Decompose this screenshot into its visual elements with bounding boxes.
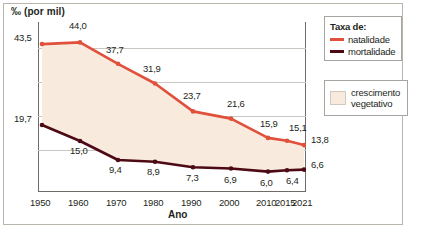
natalidade-point-1950 xyxy=(40,42,45,47)
mortalidade-point-2010 xyxy=(266,169,271,174)
x-tick-1980: 1980 xyxy=(143,197,163,208)
mortalidade-label-1980: 8,9 xyxy=(147,166,160,177)
legend-crescimento-vegetativo: crescimento vegetativo xyxy=(324,80,408,116)
legend-rates: Taxa de: natalidade mortalidade xyxy=(324,16,402,61)
natalidade-label-1950: 43,5 xyxy=(14,32,32,43)
mortalidade-label-2000: 6,9 xyxy=(224,174,237,185)
natalidade-label-1980: 31,9 xyxy=(143,63,161,74)
natalidade-point-1990 xyxy=(191,109,196,114)
legend-swatch-mortalidade xyxy=(330,50,344,53)
x-axis-title: Ano xyxy=(168,209,187,220)
plot-area xyxy=(38,22,306,192)
legend-item-mortalidade: mortalidade xyxy=(330,46,396,57)
natalidade-point-2010 xyxy=(266,136,271,141)
natalidade-point-2015 xyxy=(285,138,290,143)
x-tick-2000: 2000 xyxy=(219,197,239,208)
x-tick-2010: 2010 xyxy=(256,197,276,208)
natalidade-label-1960: 44,0 xyxy=(69,20,87,31)
mortalidade-point-1950 xyxy=(40,123,45,128)
x-tick-1960: 1960 xyxy=(68,197,88,208)
chart-figure: ‰ (por mil) 43,544,037,731,923,721,615,9… xyxy=(0,0,422,232)
natalidade-point-1980 xyxy=(153,81,158,86)
natalidade-point-2000 xyxy=(229,116,234,121)
natalidade-label-1990: 23,7 xyxy=(183,90,201,101)
mortalidade-label-2015: 6,4 xyxy=(286,175,299,186)
legend-item-natalidade: natalidade xyxy=(330,34,396,45)
mortalidade-label-2021: 6,6 xyxy=(311,159,324,170)
mortalidade-point-2015 xyxy=(285,168,290,173)
mortalidade-point-1960 xyxy=(78,139,83,144)
natalidade-point-1970 xyxy=(116,62,121,67)
image-credit: Adilson Secco/ID/BR xyxy=(416,0,422,2)
natalidade-label-2010: 15,9 xyxy=(260,118,278,129)
legend-swatch-crescimento xyxy=(330,91,346,105)
x-tick-1950: 1950 xyxy=(30,197,50,208)
x-tick-1990: 1990 xyxy=(181,197,201,208)
mortalidade-label-1970: 9,4 xyxy=(109,164,122,175)
legend-label-crescimento-line2: vegetativo xyxy=(351,98,392,109)
legend-label-natalidade: natalidade xyxy=(348,34,390,45)
x-tick-2021: 2021 xyxy=(292,197,312,208)
mortalidade-point-2000 xyxy=(229,166,234,171)
natalidade-label-2021: 13,8 xyxy=(311,134,329,145)
natalidade-point-1960 xyxy=(78,40,83,45)
mortalidade-point-1990 xyxy=(191,165,196,170)
mortalidade-point-1970 xyxy=(116,158,121,163)
legend-label-crescimento: crescimento vegetativo xyxy=(351,87,400,109)
legend-label-crescimento-line1: crescimento xyxy=(351,87,400,98)
natalidade-label-1970: 37,7 xyxy=(106,44,124,55)
legend-label-mortalidade: mortalidade xyxy=(348,46,395,57)
legend-rates-title: Taxa de: xyxy=(330,21,396,32)
chart-svg xyxy=(38,22,306,192)
natalidade-label-2000: 21,6 xyxy=(227,98,245,109)
x-tick-1970: 1970 xyxy=(106,197,126,208)
legend-swatch-natalidade xyxy=(330,38,344,41)
mortalidade-label-1990: 7,3 xyxy=(186,172,199,183)
mortalidade-point-1980 xyxy=(153,159,158,164)
natalidade-label-2015: 15,1 xyxy=(289,122,307,133)
mortalidade-label-1960: 15,0 xyxy=(70,145,88,156)
mortalidade-label-1950: 19,7 xyxy=(14,113,32,124)
mortalidade-label-2010: 6,0 xyxy=(260,177,273,188)
y-axis-caption: ‰ (por mil) xyxy=(11,6,65,17)
